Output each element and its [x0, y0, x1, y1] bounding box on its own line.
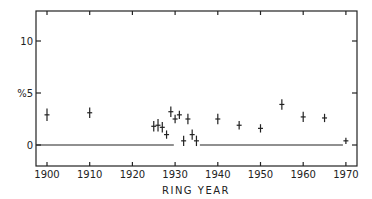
- y-tick-label: 0: [27, 140, 33, 151]
- data-point: [160, 122, 165, 132]
- y-axis-ticks: 0%510: [17, 36, 357, 151]
- x-axis-ticks: 19001910192019301940195019601970: [34, 11, 358, 180]
- data-point: [156, 119, 161, 131]
- data-point: [190, 129, 195, 139]
- data-point: [87, 108, 92, 118]
- data-point: [45, 109, 50, 121]
- x-tick-label: 1960: [290, 169, 315, 180]
- y-tick-label: %5: [17, 88, 33, 99]
- x-axis-label: RING YEAR: [162, 185, 230, 196]
- x-tick-label: 1920: [120, 169, 145, 180]
- data-point: [237, 121, 242, 129]
- data-point: [177, 111, 182, 119]
- data-point: [181, 136, 186, 146]
- x-tick-label: 1970: [333, 169, 358, 180]
- data-point: [194, 136, 199, 146]
- data-point: [258, 124, 263, 132]
- data-point: [343, 138, 348, 144]
- data-point: [173, 115, 178, 123]
- x-tick-label: 1930: [162, 169, 187, 180]
- x-tick-label: 1940: [205, 169, 230, 180]
- data-point: [301, 112, 306, 122]
- data-point: [279, 99, 284, 109]
- x-tick-label: 1910: [77, 169, 102, 180]
- chart: 19001910192019301940195019601970 0%510 R…: [0, 0, 372, 199]
- data-points: [45, 99, 349, 146]
- data-point: [168, 107, 173, 117]
- data-point: [164, 130, 169, 138]
- x-tick-label: 1950: [248, 169, 273, 180]
- data-point: [185, 114, 190, 124]
- data-point: [322, 114, 327, 122]
- data-point: [151, 121, 156, 131]
- x-tick-label: 1900: [34, 169, 59, 180]
- y-tick-label: 10: [20, 36, 33, 47]
- data-point: [215, 114, 220, 124]
